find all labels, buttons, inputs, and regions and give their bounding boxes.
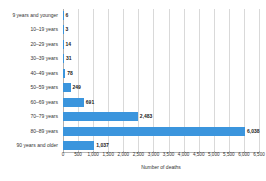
x-axis-title: Number of deaths bbox=[63, 165, 259, 170]
bar[interactable] bbox=[63, 127, 245, 136]
bar[interactable] bbox=[63, 11, 64, 20]
bar-row[interactable]: 6 bbox=[63, 10, 259, 21]
bar-value-label: 3 bbox=[66, 27, 69, 32]
bar-row[interactable]: 2,483 bbox=[63, 111, 259, 122]
bar-value-label: 691 bbox=[86, 100, 94, 105]
bar-row[interactable]: 3 bbox=[63, 24, 259, 35]
x-tick-label: 5,500 bbox=[223, 153, 235, 158]
bar[interactable] bbox=[63, 83, 71, 92]
category-label: 80–89 years bbox=[0, 126, 61, 137]
bar-value-label: 2,483 bbox=[140, 114, 153, 119]
x-tick-label: 2,500 bbox=[133, 153, 145, 158]
category-axis-labels: 9 years and younger10–19 years20–29 year… bbox=[0, 9, 61, 152]
x-tick-label: 6,000 bbox=[238, 153, 250, 158]
bar-value-label: 6,038 bbox=[247, 129, 260, 134]
bar[interactable] bbox=[63, 69, 65, 78]
category-label: 9 years and younger bbox=[0, 10, 61, 21]
bar[interactable] bbox=[63, 98, 84, 107]
bar-row[interactable]: 6,038 bbox=[63, 126, 259, 137]
x-tick-label: 5,000 bbox=[208, 153, 220, 158]
x-tick-label: 4,500 bbox=[193, 153, 205, 158]
bar[interactable] bbox=[63, 112, 138, 121]
bar[interactable] bbox=[63, 40, 64, 49]
bar-row[interactable]: 31 bbox=[63, 53, 259, 64]
bar[interactable] bbox=[63, 54, 64, 63]
plot-area: 631431782496912,4836,0381,037 bbox=[63, 9, 259, 152]
x-tick-label: 500 bbox=[74, 153, 82, 158]
category-label: 50–59 years bbox=[0, 82, 61, 93]
bar-value-label: 78 bbox=[67, 71, 73, 76]
category-label: 30–39 years bbox=[0, 53, 61, 64]
bar-value-label: 14 bbox=[66, 42, 72, 47]
category-label: 10–19 years bbox=[0, 24, 61, 35]
category-label: 40–49 years bbox=[0, 68, 61, 79]
bar-value-label: 249 bbox=[73, 85, 81, 90]
x-tick-label: 3,000 bbox=[148, 153, 160, 158]
category-label: 90 years and older bbox=[0, 140, 61, 151]
bar-value-label: 1,037 bbox=[96, 143, 109, 148]
bar-chart: 9 years and younger10–19 years20–29 year… bbox=[0, 0, 266, 181]
bar-row[interactable]: 14 bbox=[63, 39, 259, 50]
bar-value-label: 31 bbox=[66, 56, 72, 61]
bar[interactable] bbox=[63, 25, 64, 34]
category-label: 20–29 years bbox=[0, 39, 61, 50]
category-label: 70–79 years bbox=[0, 111, 61, 122]
x-axis-ticks: 05001,0001,5002,0002,5003,0003,5004,0004… bbox=[63, 153, 259, 163]
bar-row[interactable]: 691 bbox=[63, 97, 259, 108]
x-tick-label: 0 bbox=[62, 153, 65, 158]
x-tick-label: 4,000 bbox=[178, 153, 190, 158]
bar-row[interactable]: 249 bbox=[63, 82, 259, 93]
x-tick-label: 1,500 bbox=[102, 153, 114, 158]
bar-row[interactable]: 1,037 bbox=[63, 140, 259, 151]
bar[interactable] bbox=[63, 141, 94, 150]
bar-value-label: 6 bbox=[66, 13, 69, 18]
bar-rows: 631431782496912,4836,0381,037 bbox=[63, 9, 259, 152]
x-tick-label: 1,000 bbox=[87, 153, 99, 158]
x-tick-label: 6,500 bbox=[253, 153, 265, 158]
category-label: 60–69 years bbox=[0, 97, 61, 108]
x-tick-label: 3,500 bbox=[163, 153, 175, 158]
bar-row[interactable]: 78 bbox=[63, 68, 259, 79]
x-tick-label: 2,000 bbox=[118, 153, 130, 158]
